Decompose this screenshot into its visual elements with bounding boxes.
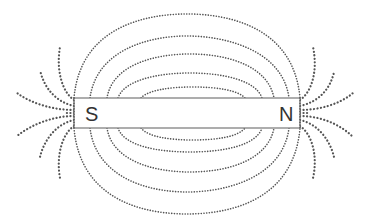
upper-field-loops [74, 14, 300, 98]
fan-line-n-3 [300, 93, 353, 110]
field-loop-upper-5 [141, 87, 245, 98]
south-pole-label: S [85, 103, 98, 125]
south-pole-fan-lines [17, 47, 74, 178]
field-lines-canvas: S N [0, 0, 370, 224]
magnet-body [74, 98, 300, 128]
fan-line-s-4 [17, 116, 74, 136]
field-loop-lower-3 [107, 128, 274, 172]
bar-magnet: S N [74, 98, 300, 128]
field-loop-upper-2 [90, 36, 289, 98]
field-loop-upper-3 [107, 54, 274, 98]
fan-line-s-5 [40, 120, 74, 157]
fan-line-s-3 [17, 93, 74, 110]
fan-line-s-1 [59, 47, 74, 100]
field-loop-lower-5 [141, 128, 245, 140]
field-loop-lower-2 [90, 128, 289, 192]
fan-line-n-1 [300, 47, 315, 100]
field-loop-upper-1 [74, 14, 300, 98]
fan-line-n-5 [300, 120, 334, 157]
bar-magnet-field-diagram: S N [0, 0, 370, 224]
fan-line-n-6 [300, 126, 315, 178]
lower-field-loops [74, 128, 300, 214]
fan-line-s-6 [59, 126, 74, 178]
north-pole-label: N [279, 103, 293, 125]
field-loop-lower-1 [74, 128, 300, 214]
north-pole-fan-lines [300, 47, 353, 178]
fan-line-n-2 [300, 72, 334, 106]
fan-line-s-2 [40, 70, 74, 106]
